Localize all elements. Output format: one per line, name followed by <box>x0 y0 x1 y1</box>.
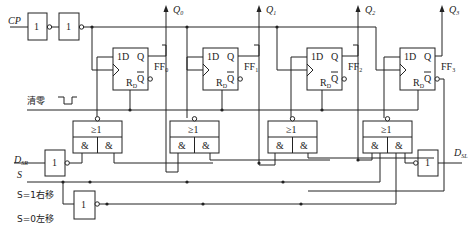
and-label: & <box>276 140 284 151</box>
junction <box>105 202 108 205</box>
or-and-gate-2: ≥1&& <box>268 117 317 153</box>
dsl-inverter-label: 1 <box>425 157 430 168</box>
clear-label: 清零 <box>27 95 45 106</box>
ff-name: FF2 <box>348 61 362 73</box>
flip-flop-2: 1DQQRDFF2 <box>291 5 362 118</box>
or-label: ≥1 <box>188 124 199 135</box>
outputs: Q0Q1Q2Q3 <box>173 4 459 16</box>
wire <box>238 10 259 56</box>
cp-label: CP <box>8 15 21 26</box>
dsl-label: DSL <box>453 147 468 159</box>
clear-pulse-icon <box>58 97 77 104</box>
gate-output-bubble <box>192 117 196 121</box>
wire <box>63 182 74 204</box>
junction <box>201 202 204 205</box>
output-arrow-icon <box>164 5 169 12</box>
ff-q-pin: Q <box>227 51 235 62</box>
qbar-bubble <box>148 77 152 81</box>
flip-flop-0: 1DQQRDFF0 <box>97 5 169 118</box>
output-arrow-icon <box>440 5 445 12</box>
wire <box>187 57 203 118</box>
wire <box>291 57 307 118</box>
qbar-bubble <box>342 77 346 81</box>
qbar-bubble <box>435 77 439 81</box>
or-label: ≥1 <box>286 124 297 135</box>
qbar-bubble <box>238 77 242 81</box>
shift-register-diagram: CP 1 1 清零 1DQQRDFF01DQQRDFF11DQQRDFF21DQ… <box>0 0 474 229</box>
mode-left-label: S=0左移 <box>17 213 54 224</box>
ff-d-pin: 1D <box>311 51 323 62</box>
q-output-label: Q1 <box>266 4 276 16</box>
clock-to-ff2 <box>277 27 307 70</box>
gate-output-bubble <box>385 117 389 121</box>
flip-flops: 1DQQRDFF01DQQRDFF11DQQRDFF21DQQRDFF3 <box>97 5 455 118</box>
clock-to-ff1 <box>187 27 203 70</box>
wire <box>97 57 113 118</box>
ff-q-pin: Q <box>424 51 432 62</box>
q-output-label: Q2 <box>365 4 375 16</box>
ff-d-pin: 1D <box>207 51 219 62</box>
junction <box>88 180 91 183</box>
junction <box>281 180 284 183</box>
dsr-inverter-label: 1 <box>52 157 57 168</box>
q-output-label: Q0 <box>173 4 183 16</box>
q-output-label: Q3 <box>449 4 459 16</box>
mode-right-label: S=1右移 <box>17 189 54 200</box>
dsl-inverter-bubble <box>414 161 418 165</box>
wire <box>70 153 83 163</box>
ff-qbar-pin: Q <box>424 73 432 84</box>
wire <box>342 10 358 56</box>
wire <box>308 153 434 158</box>
flip-flop-1: 1DQQRDFF1 <box>187 5 262 118</box>
clock-to-ff0 <box>92 27 113 70</box>
dsr-inverter-bubble <box>65 161 69 165</box>
junction <box>299 202 302 205</box>
dsr-label: DSR <box>13 154 28 166</box>
clear-section: 清零 <box>27 90 418 112</box>
ff-name: FF1 <box>244 61 258 73</box>
cp-inverter-2-label: 1 <box>66 21 71 32</box>
and-label: & <box>178 140 186 151</box>
or-and-gate-1: ≥1&& <box>170 117 219 153</box>
ff-q-pin: Q <box>331 51 339 62</box>
and-label: & <box>81 140 89 151</box>
wire <box>435 10 442 56</box>
ff-qbar-pin: Q <box>227 73 235 84</box>
cp-inverter-1-bubble <box>47 25 51 29</box>
gate-output-bubble <box>290 117 294 121</box>
junction <box>185 180 188 183</box>
output-arrow-icon <box>257 5 262 12</box>
and-label: & <box>371 140 379 151</box>
junction <box>356 158 359 161</box>
ff-qbar-pin: Q <box>137 73 145 84</box>
s-inverter-bubble <box>95 202 99 206</box>
clock-to-ff3 <box>376 27 400 70</box>
s-inverter-label: 1 <box>81 199 86 210</box>
or-and-gate-3: ≥1&& <box>363 117 412 153</box>
or-and-gate-0: ≥1&& <box>73 117 122 153</box>
ff-name: FF3 <box>441 61 455 73</box>
cp-inverter-2-bubble <box>79 25 83 29</box>
ff-d-pin: 1D <box>404 51 416 62</box>
and-label: & <box>105 140 113 151</box>
or-label: ≥1 <box>381 124 392 135</box>
wire <box>210 153 330 160</box>
ff-q-pin: Q <box>137 51 145 62</box>
output-arrow-icon <box>356 5 361 12</box>
s-label: S <box>17 169 22 180</box>
or-label: ≥1 <box>91 124 102 135</box>
wire <box>114 153 213 163</box>
and-label: & <box>202 140 210 151</box>
junction <box>257 161 260 164</box>
wire <box>148 10 166 56</box>
and-label: & <box>395 140 403 151</box>
cp-inverter-1-label: 1 <box>34 21 39 32</box>
gate-output-bubble <box>95 117 99 121</box>
ff-qbar-pin: Q <box>331 73 339 84</box>
and-label: & <box>300 140 308 151</box>
ff-d-pin: 1D <box>117 51 129 62</box>
or-and-gates: ≥1&&≥1&&≥1&&≥1&& <box>73 117 412 153</box>
wire <box>384 57 400 118</box>
